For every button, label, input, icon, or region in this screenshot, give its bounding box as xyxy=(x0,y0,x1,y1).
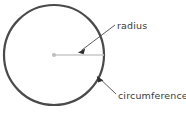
circumference-label: circumference xyxy=(118,90,186,101)
diagram-canvas: radius circumference xyxy=(0,0,186,113)
circumference-leader-line xyxy=(100,79,116,94)
radius-label: radius xyxy=(117,20,147,31)
circle-diagram: radius circumference xyxy=(0,0,186,113)
center-point-dot xyxy=(52,53,56,57)
radius-arrow-icon xyxy=(78,49,85,55)
radius-leader-line xyxy=(82,25,116,50)
